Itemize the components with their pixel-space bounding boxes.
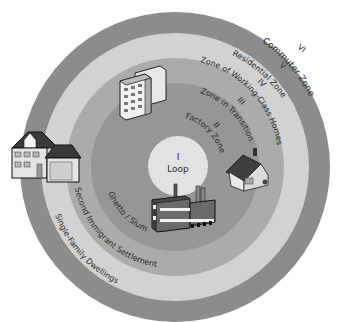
zone-i-label: Loop bbox=[167, 164, 189, 174]
concentric-zone-diagram: I Loop Commuter Zone VI Residential Zone… bbox=[0, 0, 342, 322]
zone-vi-numeral: VI bbox=[296, 42, 308, 54]
zone-i-numeral: I bbox=[177, 152, 180, 162]
